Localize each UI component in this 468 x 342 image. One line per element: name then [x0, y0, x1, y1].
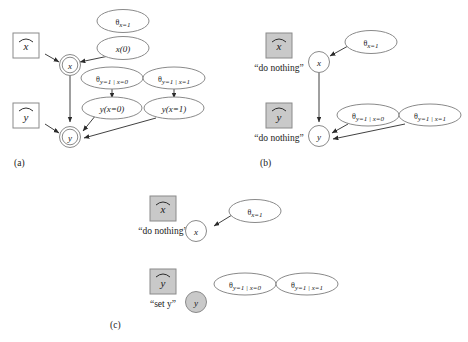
figure-canvas: x y x y θx=1	[0, 0, 468, 342]
panel-a-y-label: y	[67, 133, 72, 143]
panel-a-param-y-x1[interactable]: y(x=1)	[144, 97, 204, 119]
edge-thetay0-to-y	[332, 124, 348, 133]
panel-b-caption: (b)	[260, 158, 271, 169]
edge-yx0-to-y	[83, 115, 96, 131]
panel-c-chance-x[interactable]: x	[186, 221, 207, 242]
panel-b-decision-xhat[interactable]: x	[266, 33, 292, 58]
figure-svg: x y x y θx=1	[0, 0, 468, 342]
panel-a-x-label: x	[67, 61, 72, 71]
edge-thetax-to-x	[214, 215, 232, 226]
panel-a-param-theta-y-x1[interactable]: θy=1 | x=1	[143, 67, 205, 89]
panel-c-edges	[214, 215, 232, 226]
panel-c-yhat-annotation: “set y”	[150, 299, 176, 309]
edge-thetax-to-x	[330, 46, 348, 56]
panel-a-chance-y[interactable]: y	[60, 127, 81, 148]
panel-a-caption: (a)	[14, 158, 25, 169]
panel-a-chance-x[interactable]: x	[60, 55, 81, 76]
panel-c-y-label: y	[193, 298, 198, 308]
panel-a-param-theta-y-x0[interactable]: θy=1 | x=0	[81, 67, 143, 89]
panel-c-param-theta-y-x0[interactable]: θy=1 | x=0	[214, 273, 276, 295]
panel-c-param-theta-x[interactable]: θx=1	[229, 200, 281, 223]
panel-c-param-theta-y-x1[interactable]: θy=1 | x=1	[276, 273, 338, 295]
panel-c-caption: (c)	[110, 320, 121, 331]
panel-b-param-theta-y-x0[interactable]: θy=1 | x=0	[337, 104, 399, 126]
panel-a-decision-xhat[interactable]: x	[13, 33, 39, 58]
panel-a-y-x0-text: y(x=0)	[99, 104, 125, 114]
panel-a-y-x1-text: y(x=1)	[161, 104, 187, 114]
panel-b-xhat-annotation: “do nothing”	[254, 63, 303, 73]
panel-b-y-label: y	[316, 132, 321, 142]
panel-c-decision-xhat[interactable]: x	[150, 196, 176, 221]
panel-b-xhat-label: x	[276, 40, 282, 52]
panel-c-x-label: x	[193, 227, 198, 237]
panel-b-yhat-annotation: “do nothing”	[254, 133, 303, 143]
panel-a-param-y-x0[interactable]: y(x=0)	[82, 97, 142, 119]
panel-b-x-label: x	[316, 58, 321, 68]
panel-b-param-theta-x[interactable]: θx=1	[345, 31, 397, 54]
panel-b-decision-yhat[interactable]: y	[266, 103, 292, 128]
panel-b-chance-x[interactable]: x	[309, 52, 330, 73]
panel-a-param-x-prior[interactable]: x(0)	[97, 37, 149, 60]
panel-a-decision-yhat[interactable]: y	[13, 103, 39, 128]
panel-b-yhat-label: y	[276, 111, 282, 123]
panel-c-decision-yhat[interactable]: y	[150, 269, 176, 294]
edge-xhat-to-x	[45, 54, 59, 62]
edge-yx1-to-y	[84, 118, 156, 138]
panel-a-param-theta-x[interactable]: θx=1	[97, 10, 149, 33]
panel-c-xhat-label: x	[160, 203, 166, 215]
panel-a-yhat-label: y	[23, 111, 29, 123]
panel-c-chance-y[interactable]: y	[186, 292, 207, 313]
panel-a-xhat-label: x	[23, 40, 29, 52]
panel-c-yhat-label: y	[160, 277, 166, 289]
panel-a-x-prior-text: x(0)	[115, 44, 131, 54]
panel-b-chance-y[interactable]: y	[309, 126, 330, 147]
panel-c-xhat-annotation: “do nothing”	[138, 226, 187, 236]
panel-b-param-theta-y-x1[interactable]: θy=1 | x=1	[399, 104, 461, 126]
edge-yhat-to-y	[45, 124, 59, 133]
